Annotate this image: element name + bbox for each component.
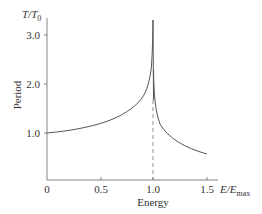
x-tick-label-0: 0: [44, 183, 50, 195]
y-tick-label-2: 2.0: [26, 78, 40, 90]
x-tick-label-10: 1.0: [146, 183, 160, 195]
x-unit-label: E/Emax: [219, 183, 250, 198]
x-tick-label-15: 1.5: [200, 183, 214, 195]
x-tick-label-05: 0.5: [94, 183, 108, 195]
period-energy-chart: 1.0 2.0 3.0 0 0.5 1.0 1.5 T/T0 E/Emax En…: [0, 0, 262, 214]
curve-right-branch: [154, 70, 208, 154]
y-axis-title: Period: [11, 80, 23, 109]
curve-left-branch: [47, 20, 153, 133]
x-axis-title: Energy: [137, 196, 169, 208]
y-tick-label-1: 1.0: [26, 127, 40, 139]
y-unit-label: T/T0: [22, 8, 41, 23]
y-tick-label-3: 3.0: [26, 29, 40, 41]
curve-spike: [153, 20, 154, 100]
